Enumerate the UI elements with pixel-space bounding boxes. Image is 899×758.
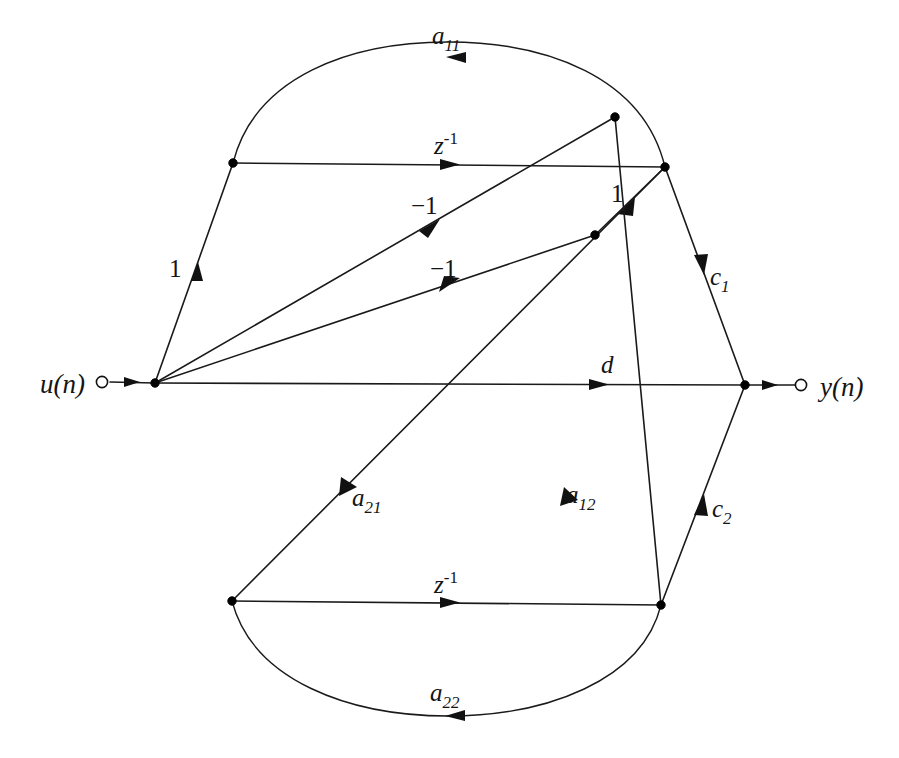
input-terminal-label: u(n) <box>40 369 85 399</box>
minus-one-upper-edge <box>155 117 615 383</box>
lower-unit-delay-arrowhead <box>440 597 460 608</box>
input-feed-arrowhead <box>124 377 140 387</box>
a22-label-base: a <box>430 679 443 706</box>
signal-flow-graph: u(n) y(n) a11 z-1 1 −1 −1 1 c1 d a21 a12 <box>0 0 899 758</box>
a11-feedback-arc <box>233 42 665 167</box>
upper-delay-label: z-1 <box>433 129 458 159</box>
minus-one-lower-edge <box>155 235 595 383</box>
output-summing-node <box>741 381 749 389</box>
lower-delay-output-node <box>657 601 665 609</box>
c1-arrowhead <box>694 254 708 275</box>
a11-label-subscript: 11 <box>445 36 461 55</box>
figure-canvas: u(n) y(n) a11 z-1 1 −1 −1 1 c1 d a21 a12 <box>0 0 899 758</box>
lower-delay-label: z-1 <box>433 568 458 598</box>
c2-label-subscript: 2 <box>723 509 732 528</box>
lower-delay-input-node <box>228 597 236 605</box>
output-terminal-label: y(n) <box>817 372 863 402</box>
upper-feedback-branch-node <box>611 113 619 121</box>
input-terminal-circle <box>96 376 107 387</box>
a22-label-subscript: 22 <box>443 693 461 712</box>
a12-label: a12 <box>566 481 596 514</box>
lower-delay-label-base: z <box>433 571 444 598</box>
c2-label-base: c <box>712 495 723 522</box>
upper-delay-output-node <box>661 163 669 171</box>
label-layer: u(n) y(n) a11 z-1 1 −1 −1 1 c1 d a21 a12 <box>40 22 863 712</box>
a11-label-base: a <box>432 22 445 49</box>
gain-one-right-label: 1 <box>611 180 624 207</box>
a21-label: a21 <box>352 484 382 517</box>
c1-label: c1 <box>710 263 730 296</box>
upper-unit-delay-arrowhead <box>440 159 460 170</box>
a21-label-subscript: 21 <box>365 498 382 517</box>
node-layer <box>96 113 806 609</box>
c1-label-subscript: 1 <box>721 277 730 296</box>
a11-label: a11 <box>432 22 460 55</box>
upper-delay-input-node <box>229 159 237 167</box>
gain-one-to-upper-delay-arrowhead <box>191 262 203 281</box>
gain-one-left-label: 1 <box>169 255 182 282</box>
c2-output-edge <box>661 385 745 605</box>
upper-delay-label-exponent: -1 <box>444 129 458 148</box>
c1-label-base: c <box>710 263 721 290</box>
minus-one-lower-label: −1 <box>430 255 457 282</box>
a12-label-subscript: 12 <box>579 495 597 514</box>
lower-delay-label-exponent: -1 <box>444 568 458 587</box>
c2-arrowhead <box>694 494 708 516</box>
a22-label: a22 <box>430 679 460 712</box>
output-terminal-circle <box>795 379 806 390</box>
c2-label: c2 <box>712 495 732 528</box>
minus-one-upper-label: −1 <box>411 192 438 219</box>
second-state-branch-node <box>591 231 599 239</box>
c1-output-edge <box>665 167 745 385</box>
output-feed-arrowhead <box>762 380 778 390</box>
d-label: d <box>601 351 614 378</box>
upper-delay-label-base: z <box>433 132 444 159</box>
d-arrowhead <box>589 379 609 390</box>
a12-label-base: a <box>566 481 579 508</box>
a21-label-base: a <box>352 484 365 511</box>
input-summing-node <box>151 379 159 387</box>
